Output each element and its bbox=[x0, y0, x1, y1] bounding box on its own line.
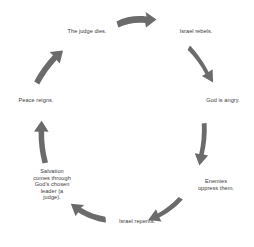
arrow-repents-to-salvation bbox=[71, 204, 106, 223]
cycle-node-salvation: Salvation comes through God's chosen lea… bbox=[19, 168, 85, 201]
cycle-arrows-group bbox=[0, 0, 254, 247]
cycle-node-enemies-oppress: Enemies oppress them. bbox=[186, 178, 246, 191]
cycle-node-israel-rebels: Israel rebels. bbox=[167, 28, 225, 35]
arrow-judge-to-rebels bbox=[117, 12, 157, 28]
cycle-node-peace-reigns: Peace reigns. bbox=[8, 97, 64, 104]
cycle-diagram: The judge dies. Israel rebels. God is an… bbox=[0, 0, 254, 247]
cycle-node-israel-repents: Israel repents. bbox=[106, 218, 168, 225]
arrow-salvation-to-peace bbox=[34, 121, 49, 164]
arrow-rebels-to-angry bbox=[188, 46, 214, 83]
arrow-angry-to-enemies bbox=[195, 123, 208, 166]
cycle-node-judge-dies: The judge dies. bbox=[58, 28, 116, 35]
arrow-peace-to-judge bbox=[34, 50, 63, 84]
cycle-node-god-angry: God is angry. bbox=[196, 97, 250, 104]
